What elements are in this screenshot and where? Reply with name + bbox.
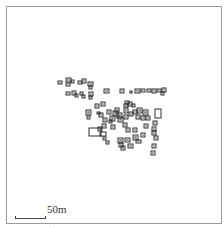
building-fill	[67, 84, 69, 85]
building-fill	[76, 95, 77, 96]
building-fill	[96, 105, 98, 107]
building-fill	[104, 119, 106, 121]
building-fill	[125, 105, 127, 106]
footer-mark: · ·	[50, 225, 55, 228]
building-fill	[134, 136, 137, 139]
building-fill	[90, 87, 91, 88]
building-fill	[155, 137, 157, 139]
building-fill	[111, 117, 114, 120]
building-fill	[90, 93, 92, 95]
building-fill	[122, 147, 124, 149]
building-fill	[133, 105, 134, 106]
building-footprint	[155, 109, 161, 118]
building-fill	[124, 124, 126, 126]
building-fill	[152, 152, 154, 154]
building-fill	[158, 90, 160, 91]
building-fill	[67, 93, 69, 94]
building-fill	[72, 81, 73, 82]
building-fill	[121, 90, 123, 92]
building-fill	[118, 114, 121, 117]
building-fill	[153, 90, 155, 92]
building-fill	[142, 90, 144, 91]
building-fill	[90, 97, 91, 98]
building-fill	[119, 139, 122, 142]
building-fill	[67, 79, 70, 81]
building-fill	[102, 103, 104, 105]
building-fill	[162, 93, 163, 94]
building-fill	[119, 118, 122, 121]
building-fill	[137, 141, 140, 142]
scale-label: 50m	[47, 203, 67, 215]
building-fill	[144, 111, 147, 114]
building-fill	[129, 103, 131, 105]
building-fill	[137, 116, 139, 118]
building-fill	[110, 121, 111, 122]
building-fill	[104, 138, 105, 139]
building-fill	[145, 125, 147, 127]
building-footprints	[0, 0, 224, 228]
building-fill	[163, 89, 165, 91]
building-fill	[112, 126, 114, 128]
building-fill	[107, 142, 108, 143]
building-fill	[134, 129, 136, 131]
building-fill	[153, 128, 155, 130]
building-fill	[130, 113, 132, 115]
building-fill	[126, 139, 129, 141]
building-fill	[154, 122, 156, 124]
building-fill	[88, 117, 89, 118]
building-fill	[147, 117, 149, 119]
building-fill	[83, 96, 84, 97]
building-fill	[105, 90, 108, 92]
building-fill	[153, 132, 155, 134]
building-fill	[138, 109, 141, 112]
building-fill	[114, 112, 117, 115]
building-fill	[131, 92, 132, 93]
building-fill	[103, 125, 105, 127]
building-fill	[142, 134, 144, 136]
building-fill	[142, 117, 144, 119]
building-fill	[116, 109, 118, 111]
building-fill	[79, 82, 81, 83]
building-fill	[127, 129, 129, 131]
scale-bar	[15, 216, 46, 219]
building-fill	[89, 83, 92, 85]
building-fill	[81, 93, 82, 94]
building-fill	[129, 145, 132, 147]
building-fill	[83, 80, 85, 82]
building-fill	[59, 82, 61, 83]
building-fill	[125, 109, 127, 112]
building-fill	[125, 116, 127, 118]
building-fill	[98, 113, 99, 114]
building-fill	[153, 145, 155, 147]
building-fill	[134, 111, 136, 113]
building-fill	[87, 111, 90, 114]
building-fill	[148, 90, 150, 91]
building-fill	[136, 90, 139, 92]
building-fill	[108, 111, 110, 113]
